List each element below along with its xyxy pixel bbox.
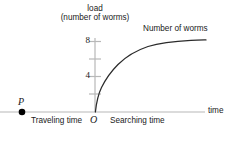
searching-time-label: Searching time [110,117,165,126]
point-p-marker [19,109,26,116]
traveling-time-label: Traveling time [31,117,82,126]
y-axis-title: load (number of worms) [61,5,130,22]
worm-load-graph-figure: load (number of worms) 8 4 Number of wor… [0,0,225,141]
worms-curve [95,40,206,112]
point-p-label: P [18,97,24,108]
y-tick-label-8: 8 [78,36,90,45]
y-axis-title-line2: (number of worms) [61,14,130,23]
curve-annotation-label: Number of worms [143,25,208,34]
y-tick-label-4: 4 [78,71,90,80]
origin-label: O [90,115,97,126]
x-axis-label: time [208,107,223,116]
